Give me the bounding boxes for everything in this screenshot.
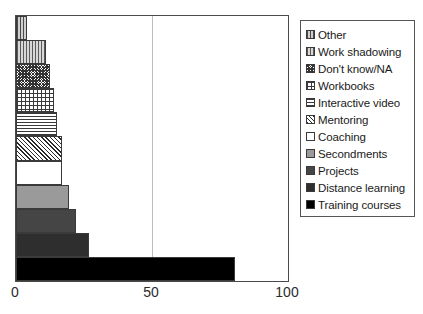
legend-item-interactive-video[interactable]: Interactive video (306, 94, 410, 111)
x-tick-label-50: 50 (143, 284, 159, 300)
bar-distance-learning (16, 233, 89, 257)
legend-item-workbooks[interactable]: Workbooks (306, 77, 410, 94)
bar-row (16, 112, 288, 136)
legend-swatch-icon (306, 64, 315, 73)
bar-training-courses (16, 257, 235, 281)
bar-row (16, 161, 288, 185)
legend: OtherWork shadowingDon't know/NAWorkbook… (300, 20, 415, 217)
bar-row (16, 40, 288, 64)
legend-swatch-icon (306, 132, 315, 141)
legend-item-don-t-know-na[interactable]: Don't know/NA (306, 60, 410, 77)
legend-item-label: Don't know/NA (318, 63, 392, 75)
legend-item-label: Other (318, 29, 346, 41)
legend-item-label: Workbooks (318, 80, 374, 92)
bar-row (16, 64, 288, 88)
bar-secondments (16, 185, 69, 209)
legend-item-label: Projects (318, 165, 359, 177)
legend-item-distance-learning[interactable]: Distance learning (306, 179, 410, 196)
legend-item-label: Secondments (318, 148, 387, 160)
legend-swatch-icon (306, 30, 315, 39)
legend-item-training-courses[interactable]: Training courses (306, 196, 410, 213)
legend-swatch-icon (306, 115, 315, 124)
legend-swatch-icon (306, 166, 315, 175)
legend-item-other[interactable]: Other (306, 26, 410, 43)
legend-item-label: Interactive video (318, 97, 400, 109)
bar-don-t-know-na (16, 64, 50, 88)
bar-projects (16, 209, 76, 233)
legend-swatch-icon (306, 98, 315, 107)
x-tick-label-100: 100 (275, 284, 298, 300)
bar-chart: 050100 OtherWork shadowingDon't know/NAW… (0, 0, 423, 314)
x-axis: 050100 (0, 284, 423, 306)
plot-area (15, 15, 289, 282)
x-tick-label-0: 0 (11, 284, 19, 300)
bar-row (16, 257, 288, 281)
bar-row (16, 16, 288, 40)
legend-item-label: Training courses (318, 199, 401, 211)
legend-item-label: Distance learning (318, 182, 405, 194)
legend-item-projects[interactable]: Projects (306, 162, 410, 179)
legend-swatch-icon (306, 200, 315, 209)
bars-layer (16, 16, 288, 281)
bar-row (16, 185, 288, 209)
legend-item-mentoring[interactable]: Mentoring (306, 111, 410, 128)
legend-swatch-icon (306, 149, 315, 158)
legend-swatch-icon (306, 47, 315, 56)
bar-coaching (16, 161, 62, 185)
legend-item-secondments[interactable]: Secondments (306, 145, 410, 162)
bar-mentoring (16, 136, 62, 160)
bar-row (16, 209, 288, 233)
bar-row (16, 233, 288, 257)
legend-item-coaching[interactable]: Coaching (306, 128, 410, 145)
legend-swatch-icon (306, 183, 315, 192)
bar-work-shadowing (16, 40, 46, 64)
bar-workbooks (16, 88, 54, 112)
bar-interactive-video (16, 112, 57, 136)
legend-item-work-shadowing[interactable]: Work shadowing (306, 43, 410, 60)
bar-row (16, 136, 288, 160)
bar-other (16, 16, 27, 40)
bar-row (16, 88, 288, 112)
legend-item-label: Coaching (318, 131, 366, 143)
legend-item-label: Mentoring (318, 114, 368, 126)
legend-swatch-icon (306, 81, 315, 90)
legend-item-label: Work shadowing (318, 46, 401, 58)
